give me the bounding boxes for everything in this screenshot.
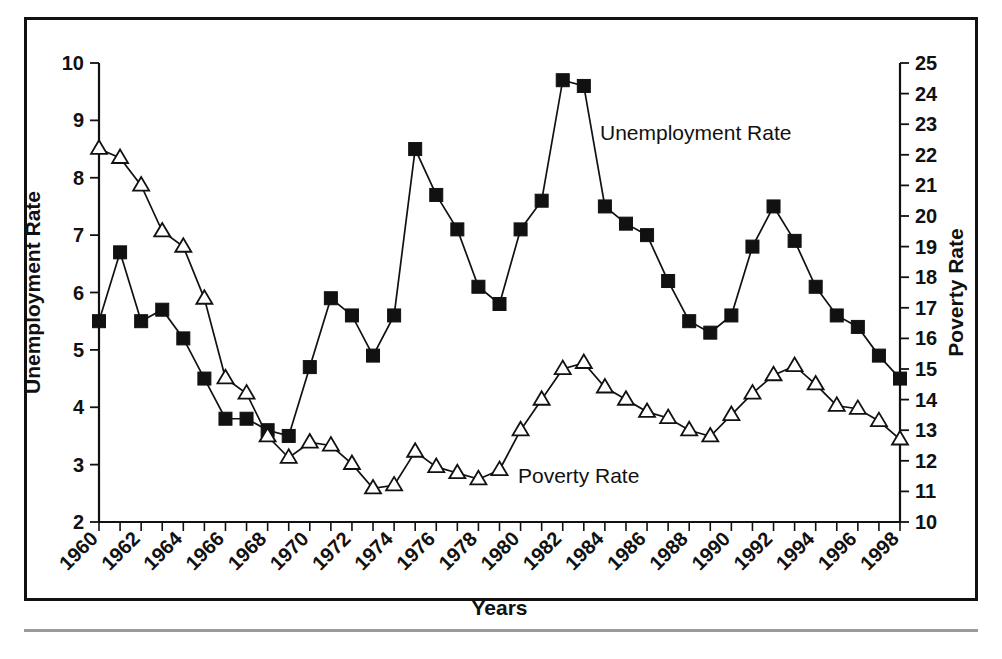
data-point-marker bbox=[788, 234, 801, 247]
data-point-marker bbox=[513, 422, 529, 436]
data-point-marker bbox=[156, 303, 169, 316]
data-point-marker bbox=[240, 412, 253, 425]
data-point-marker bbox=[787, 358, 803, 372]
data-point-marker bbox=[388, 309, 401, 322]
x-axis-tick-label: 1998 bbox=[856, 527, 903, 574]
data-point-marker bbox=[641, 229, 654, 242]
x-axis-tick-label: 1994 bbox=[771, 527, 819, 575]
right-axis-tick-label: 18 bbox=[915, 266, 937, 288]
x-axis-tick-label: 1970 bbox=[266, 527, 313, 574]
data-point-marker bbox=[177, 332, 190, 345]
data-point-marker bbox=[198, 372, 211, 385]
x-axis-tick-label: 1978 bbox=[434, 527, 481, 574]
data-point-marker bbox=[344, 455, 360, 469]
left-axis-tick-label: 2 bbox=[73, 511, 84, 533]
data-point-marker bbox=[492, 462, 508, 476]
data-point-marker bbox=[282, 429, 295, 442]
right-axis-tick-label: 10 bbox=[915, 511, 937, 533]
chart-figure: 1960196219641966196819701972197419761978… bbox=[0, 0, 1002, 659]
data-point-marker bbox=[598, 200, 611, 213]
data-point-marker bbox=[534, 391, 550, 405]
data-point-marker bbox=[175, 238, 191, 252]
data-point-marker bbox=[556, 74, 569, 87]
x-axis-tick-label: 1984 bbox=[561, 527, 609, 575]
data-point-marker bbox=[725, 309, 738, 322]
data-point-marker bbox=[662, 275, 675, 288]
data-point-marker bbox=[409, 143, 422, 156]
poverty-rate-series bbox=[91, 140, 908, 493]
x-axis-tick-label: 1988 bbox=[645, 527, 692, 574]
left-axis-tick-label: 6 bbox=[73, 282, 84, 304]
data-point-marker bbox=[493, 297, 506, 310]
right-axis-tick-label: 11 bbox=[915, 480, 936, 502]
right-axis-tick-label: 19 bbox=[915, 236, 937, 258]
right-axis-tick-label: 21 bbox=[915, 174, 937, 196]
y2-axis-title: Poverty Rate bbox=[944, 228, 967, 356]
left-axis-tick-label: 4 bbox=[73, 396, 85, 418]
right-axis-tick-label: 20 bbox=[915, 205, 937, 227]
x-axis-tick-label: 1960 bbox=[55, 527, 102, 574]
data-point-marker bbox=[619, 217, 632, 230]
x-axis-tick-label: 1976 bbox=[392, 527, 439, 574]
x-axis-tick-label: 1990 bbox=[687, 527, 734, 574]
data-point-marker bbox=[239, 385, 255, 399]
right-axis-tick-label: 22 bbox=[915, 144, 937, 166]
line-chart: 1960196219641966196819701972197419761978… bbox=[0, 0, 1002, 659]
x-axis-tick-label: 1982 bbox=[519, 527, 566, 574]
y-axis-title: Unemployment Rate bbox=[21, 191, 44, 394]
right-axis-tick-label: 17 bbox=[915, 297, 937, 319]
unemployment-series-label: Unemployment Rate bbox=[600, 121, 791, 144]
data-point-marker bbox=[892, 431, 908, 445]
right-axis-tick-label: 16 bbox=[915, 327, 937, 349]
x-axis-tick-label: 1996 bbox=[814, 527, 861, 574]
data-point-marker bbox=[302, 434, 318, 448]
data-point-marker bbox=[93, 315, 106, 328]
right-axis-tick-label: 12 bbox=[915, 450, 937, 472]
right-axis-tick-label: 23 bbox=[915, 113, 937, 135]
data-point-marker bbox=[809, 280, 822, 293]
right-axis-tick-label: 25 bbox=[915, 52, 937, 74]
x-axis-tick-label: 1972 bbox=[308, 527, 355, 574]
data-point-marker bbox=[472, 280, 485, 293]
poverty-series-label: Poverty Rate bbox=[518, 464, 639, 487]
data-point-marker bbox=[639, 403, 655, 417]
left-axis-tick-label: 8 bbox=[73, 167, 84, 189]
data-point-marker bbox=[894, 372, 907, 385]
x-axis-tick-label: 1974 bbox=[350, 527, 398, 575]
right-axis-tick-label: 13 bbox=[915, 419, 937, 441]
data-point-marker bbox=[345, 309, 358, 322]
x-axis-tick-label: 1964 bbox=[139, 527, 187, 575]
left-axis-tick-label: 10 bbox=[62, 52, 84, 74]
data-point-marker bbox=[851, 320, 864, 333]
data-point-marker bbox=[91, 140, 107, 154]
data-point-marker bbox=[830, 309, 843, 322]
data-point-marker bbox=[871, 413, 887, 427]
x-axis-tick-label: 1966 bbox=[181, 527, 228, 574]
x-axis-ticks: 1960196219641966196819701972197419761978… bbox=[55, 522, 903, 574]
data-point-marker bbox=[704, 326, 717, 339]
left-axis-tick-label: 7 bbox=[73, 224, 84, 246]
data-point-marker bbox=[135, 315, 148, 328]
data-point-marker bbox=[681, 422, 697, 436]
data-point-marker bbox=[535, 194, 548, 207]
data-point-marker bbox=[114, 246, 127, 259]
x-axis-title: Years bbox=[471, 596, 527, 619]
x-axis-tick-label: 1980 bbox=[476, 527, 523, 574]
data-point-marker bbox=[514, 223, 527, 236]
data-point-marker bbox=[576, 355, 592, 369]
data-point-marker bbox=[386, 477, 402, 491]
data-point-marker bbox=[154, 223, 170, 237]
data-point-marker bbox=[428, 459, 444, 473]
data-point-marker bbox=[577, 79, 590, 92]
right-axis-ticks: 10111213141516171819202122232425 bbox=[900, 52, 938, 533]
data-point-marker bbox=[407, 443, 423, 457]
data-point-marker bbox=[808, 376, 824, 390]
left-axis-tick-label: 3 bbox=[73, 454, 84, 476]
data-point-marker bbox=[219, 412, 232, 425]
left-axis-ticks: 2345678910 bbox=[62, 52, 99, 533]
data-point-marker bbox=[872, 349, 885, 362]
data-point-marker bbox=[196, 290, 212, 304]
data-point-marker bbox=[324, 292, 337, 305]
left-axis-tick-label: 5 bbox=[73, 339, 84, 361]
data-point-marker bbox=[451, 223, 464, 236]
